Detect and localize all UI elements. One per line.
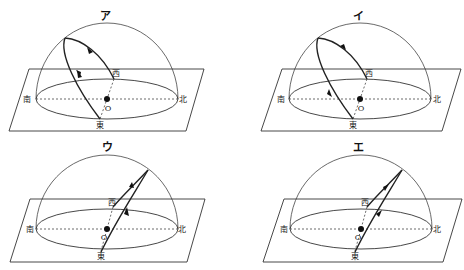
- label-north: 北: [178, 225, 186, 234]
- label-origin: O: [358, 104, 365, 113]
- arrow-icon: [327, 89, 332, 97]
- label-origin: O: [355, 233, 362, 242]
- label-north: 北: [433, 225, 441, 234]
- panel-u: ウ 南 北 西 東 O: [10, 141, 205, 262]
- label-north: 北: [179, 95, 187, 104]
- label-east: 東: [96, 120, 104, 130]
- label-south: 南: [277, 94, 285, 104]
- sun-path-rising: [318, 38, 367, 79]
- celestial-sphere-diagrams: ア 南 北 西 東 O イ 南 北 西 東 O ウ: [0, 0, 464, 270]
- observer-point: [104, 226, 110, 232]
- hemisphere-dome: [290, 155, 432, 229]
- sun-path-setting: [317, 38, 353, 119]
- label-south: 南: [23, 94, 31, 104]
- panel-title: ア: [100, 10, 111, 23]
- sun-path-setting: [113, 170, 148, 207]
- label-east: 東: [351, 251, 359, 261]
- panel-a: ア 南 北 西 東 O: [9, 10, 204, 131]
- label-west: 西: [361, 198, 369, 207]
- hemisphere-dome: [36, 23, 178, 99]
- hemisphere-dome: [289, 23, 431, 99]
- arrow-icon: [383, 184, 389, 191]
- label-south: 南: [280, 224, 288, 234]
- label-east: 東: [97, 251, 105, 261]
- label-west: 西: [112, 69, 120, 78]
- panel-i: イ 南 北 西 東 O: [261, 10, 461, 131]
- label-west: 西: [108, 198, 116, 207]
- panel-title: ウ: [102, 141, 113, 154]
- observer-point: [358, 226, 364, 232]
- label-origin: O: [101, 233, 108, 242]
- label-origin: O: [105, 104, 112, 113]
- panel-title: エ: [353, 141, 364, 154]
- observer-point: [104, 96, 110, 102]
- label-east: 東: [349, 120, 357, 130]
- sun-path-rising: [64, 38, 100, 119]
- arrow-icon: [77, 70, 82, 78]
- panel-title: イ: [353, 10, 364, 23]
- label-north: 北: [433, 95, 441, 104]
- sun-path-setting: [65, 38, 114, 79]
- label-south: 南: [26, 224, 34, 234]
- hemisphere-dome: [36, 155, 178, 229]
- observer-point: [357, 96, 363, 102]
- label-west: 西: [365, 69, 373, 78]
- panel-e: エ 南 北 西 東 O: [263, 141, 462, 262]
